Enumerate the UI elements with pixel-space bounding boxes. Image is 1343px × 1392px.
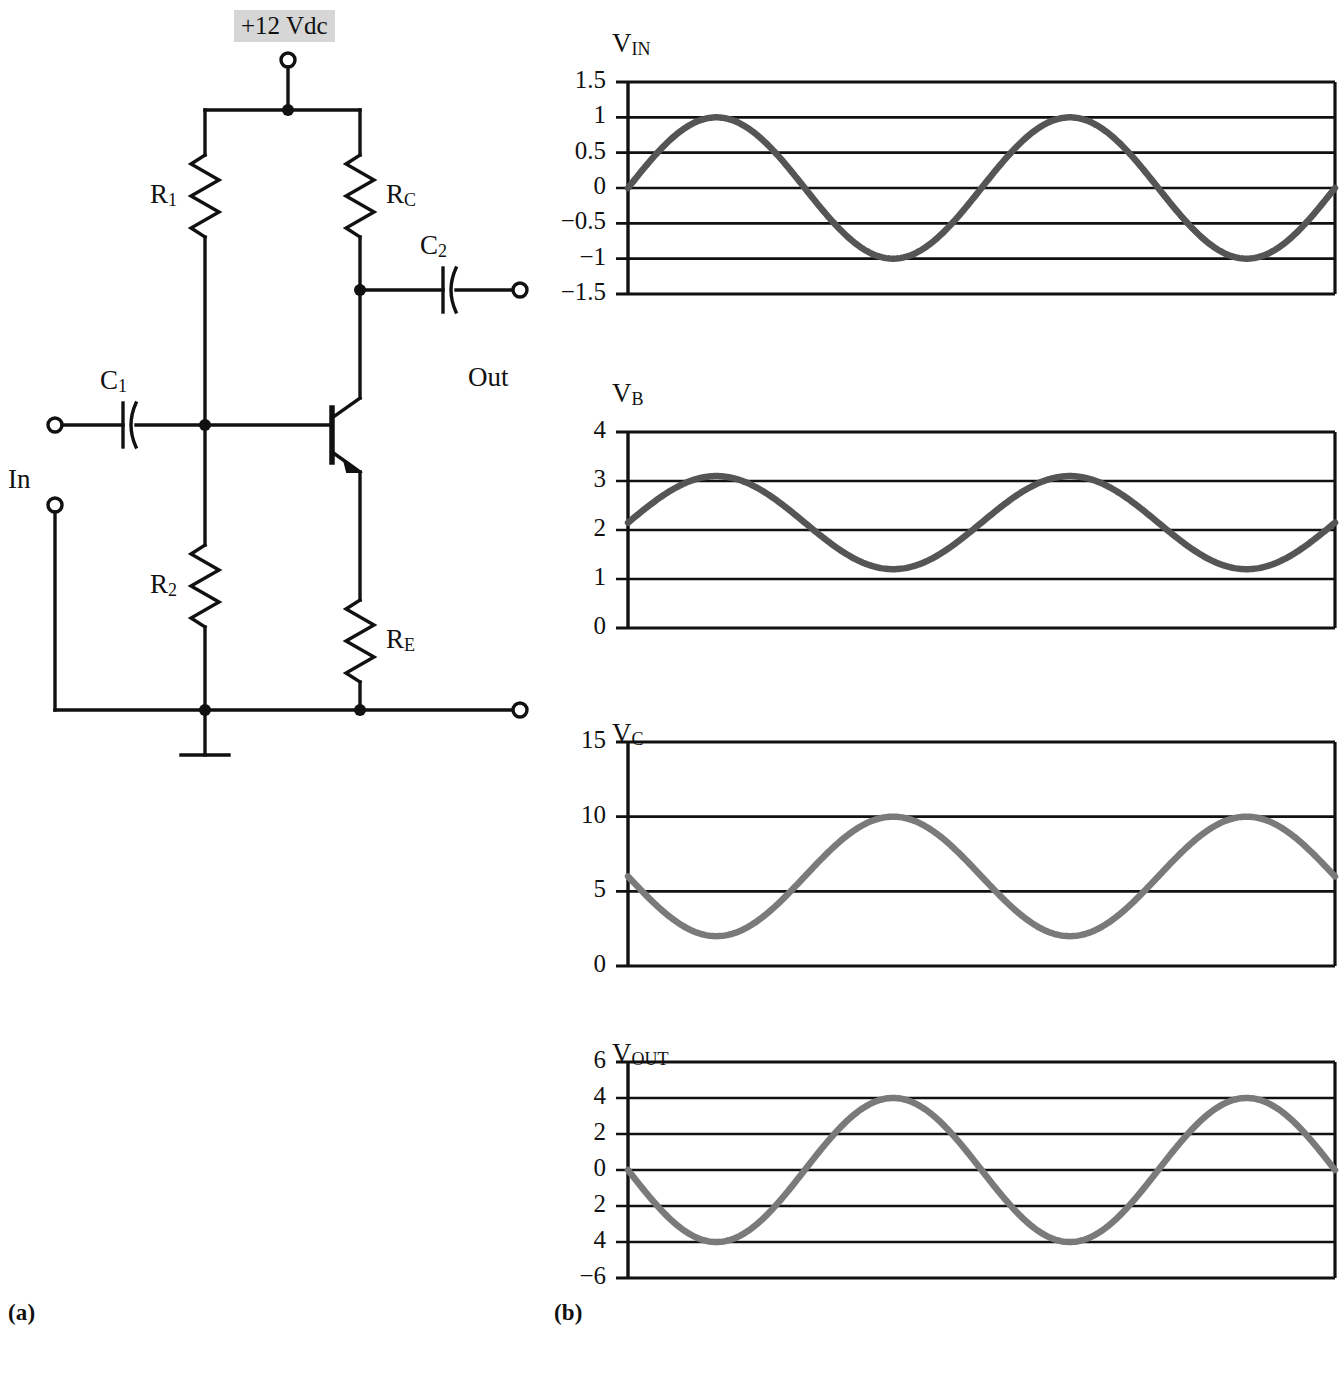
- re-resistor-body: [346, 600, 374, 682]
- waveform-svg-vb: [540, 380, 1343, 658]
- plot-title-main: V: [612, 1038, 632, 1068]
- junction-dot-supply: [282, 104, 294, 116]
- input-terminal-top-icon: [48, 418, 62, 432]
- input-terminal-bottom-icon: [48, 498, 62, 512]
- y-tick-label: 6: [540, 1047, 606, 1072]
- y-tick-label: 4: [540, 1227, 606, 1252]
- y-tick-label: 10: [540, 802, 606, 827]
- y-tick-label: −6: [540, 1263, 606, 1288]
- y-tick-label: 2: [540, 1191, 606, 1216]
- plot-title-main: V: [612, 718, 632, 748]
- y-tick-label: 0: [540, 613, 606, 638]
- y-tick-label: 2: [540, 1119, 606, 1144]
- panel-a-letter: (a): [8, 1300, 35, 1326]
- y-tick-label: 1.5: [540, 67, 606, 92]
- c2-label: C2: [420, 232, 447, 260]
- y-tick-label: 4: [540, 1083, 606, 1108]
- plot-title-main: V: [612, 378, 632, 408]
- c1-label: C1: [100, 367, 127, 395]
- waveform-trace: [628, 817, 1335, 936]
- plot-title-main: V: [612, 28, 632, 58]
- waveform-trace: [628, 476, 1335, 569]
- plot-title-vin: VIN: [612, 30, 651, 58]
- y-tick-label: 4: [540, 417, 606, 442]
- transistor-emitter-arrow-icon: [344, 460, 360, 472]
- plot-title-vout: VOUT: [612, 1040, 669, 1068]
- rc-resistor-body: [346, 155, 374, 237]
- input-label: In: [8, 466, 31, 493]
- r2-resistor-body: [191, 545, 219, 627]
- y-tick-label: 1: [540, 102, 606, 127]
- plot-title-vc: VC: [612, 720, 644, 748]
- y-tick-label: 1: [540, 564, 606, 589]
- output-label: Out: [468, 364, 509, 391]
- supply-voltage-label: +12 Vdc: [234, 10, 335, 42]
- y-tick-label: −0.5: [540, 208, 606, 233]
- y-tick-label: 0: [540, 1155, 606, 1180]
- y-tick-label: 0.5: [540, 138, 606, 163]
- transistor-collector-lead: [332, 398, 360, 418]
- supply-terminal-icon: [281, 53, 295, 67]
- y-tick-label: 0: [540, 951, 606, 976]
- plot-title-vb: VB: [612, 380, 644, 408]
- panel-b-letter: (b): [554, 1300, 583, 1326]
- waveform-svg-vc: [540, 690, 1343, 996]
- y-tick-label: 5: [540, 876, 606, 901]
- r1-resistor-body: [191, 155, 219, 237]
- y-tick-label: −1: [540, 244, 606, 269]
- re-label: RE: [386, 626, 415, 654]
- circuit-panel: +12 Vdc R1 RC R2 RE C1 C2 In Out: [0, 0, 560, 760]
- r1-label: R1: [150, 181, 177, 209]
- plot-title-sub: OUT: [632, 1049, 669, 1069]
- y-tick-label: 3: [540, 466, 606, 491]
- output-return-terminal-icon: [513, 703, 527, 717]
- output-terminal-icon: [513, 283, 527, 297]
- y-tick-label: 2: [540, 515, 606, 540]
- junction-dot-ground-re: [354, 704, 366, 716]
- y-tick-label: 0: [540, 173, 606, 198]
- r2-label: R2: [150, 571, 177, 599]
- y-tick-label: −1.5: [540, 279, 606, 304]
- waveform-svg-vin: [540, 30, 1343, 324]
- rc-label: RC: [386, 181, 416, 209]
- plot-title-sub: C: [632, 729, 644, 749]
- plot-title-sub: IN: [632, 39, 651, 59]
- y-tick-label: 15: [540, 727, 606, 752]
- plot-title-sub: B: [632, 389, 644, 409]
